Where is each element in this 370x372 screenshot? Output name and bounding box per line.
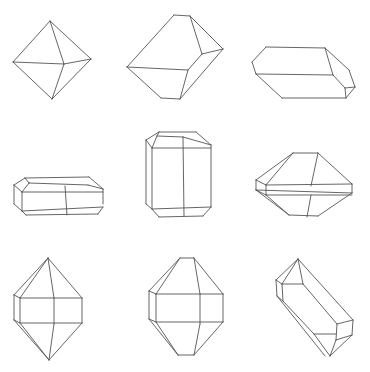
crystal-diagram-canvas: [0, 0, 370, 372]
background: [0, 0, 370, 372]
